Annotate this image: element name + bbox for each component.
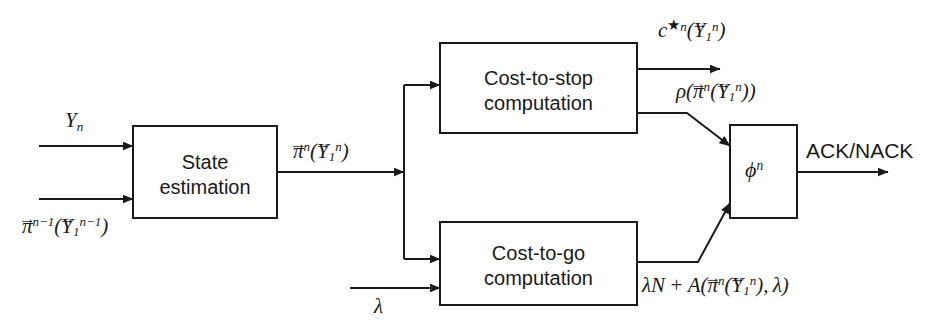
state-estimation-line2: estimation <box>133 175 277 200</box>
arrow-rho-to-phi <box>637 113 730 146</box>
label-rho-output: ρ(π→n(Y→1n)) <box>676 80 756 103</box>
block-label-cost-to-go: Cost-to-go computation <box>440 241 637 291</box>
cost-to-go-line2: computation <box>440 266 637 291</box>
label-prior-belief-input: π→n−1(Y→1n−1) <box>22 215 108 238</box>
block-phi <box>730 125 797 218</box>
block-label-state-estimation: State estimation <box>133 150 277 200</box>
label-lambda-input: λ <box>374 296 383 317</box>
label-decision-output: ACK/NACK <box>806 140 913 161</box>
arrow-cost-to-go-to-phi <box>637 203 730 262</box>
phi-block-symbol: ϕn <box>745 159 763 181</box>
cost-to-stop-line1: Cost-to-stop <box>440 66 637 91</box>
block-diagram: State estimation Cost-to-stop computatio… <box>0 0 935 333</box>
label-cost-to-stop-output: c★n(Y→1n) <box>658 18 726 43</box>
block-label-cost-to-stop: Cost-to-stop computation <box>440 66 637 116</box>
label-cost-to-go-output: λN + A(π→n(Y→1n), λ) <box>642 274 789 297</box>
label-observation-input: Yn <box>65 110 83 133</box>
state-estimation-line1: State <box>133 150 277 175</box>
cost-to-go-line1: Cost-to-go <box>440 241 637 266</box>
label-belief-state: π→n(Y→1n) <box>293 140 349 163</box>
cost-to-stop-line2: computation <box>440 91 637 116</box>
